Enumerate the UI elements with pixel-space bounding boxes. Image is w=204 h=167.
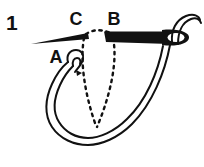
hidden-stitch-left-leg — [83, 38, 97, 126]
thread-right-strand-inner — [88, 46, 163, 138]
stitch-diagram-canvas: 1 C B A — [0, 0, 204, 167]
thread-right-strand-outer — [88, 45, 170, 145]
figure-step-number: 1 — [6, 11, 18, 34]
needle-shank-segment — [104, 32, 170, 45]
point-label-a: A — [50, 47, 63, 67]
stitch-diagram-figure: 1 C B A — [0, 0, 204, 167]
hidden-stitch-path — [83, 30, 115, 127]
thread-end-nib — [76, 70, 82, 76]
thread-left-strand-outer — [46, 62, 88, 145]
hidden-stitch-right-leg — [97, 38, 115, 127]
point-label-b: B — [108, 9, 121, 29]
thread-left-strand-inner — [55, 66, 88, 138]
needle-eye-hole — [168, 33, 185, 42]
sewing-needle — [31, 30, 189, 46]
needle-tip-segment — [31, 33, 89, 44]
point-label-c: C — [70, 9, 83, 29]
